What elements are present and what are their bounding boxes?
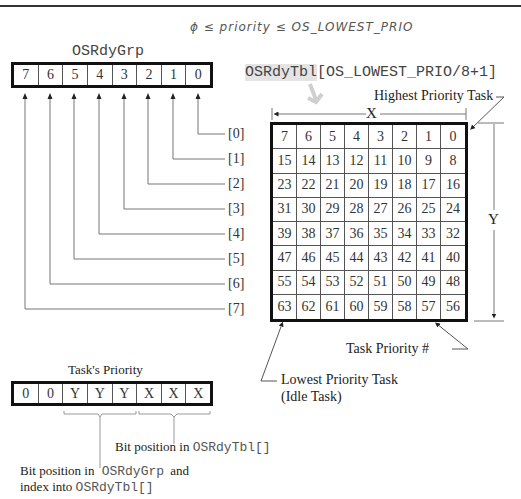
priority-cell: 2 — [393, 125, 417, 149]
priority-cell: 16 — [441, 174, 465, 198]
priority-cell: 7 — [273, 125, 297, 149]
priority-cell: 56 — [441, 295, 465, 319]
priority-cell: 3 — [369, 125, 393, 149]
row-label: [3] — [228, 201, 244, 217]
row-label: [0] — [228, 126, 244, 142]
priority-cell: 61 — [321, 295, 345, 319]
priority-cell: 24 — [441, 198, 465, 222]
y-index-code: OSRdyTbl[] — [76, 480, 154, 495]
task-priority-bit: X — [162, 384, 187, 403]
priority-cell: 34 — [393, 222, 417, 246]
priority-cell: 36 — [345, 222, 369, 246]
priority-cell: 28 — [345, 198, 369, 222]
priority-cell: 31 — [273, 198, 297, 222]
priority-cell: 47 — [273, 246, 297, 270]
y-bits-explanation-line2: index into OSRdyTbl[] — [20, 479, 154, 495]
priority-cell: 43 — [369, 246, 393, 270]
priority-cell: 25 — [417, 198, 441, 222]
task-priority-bits: 0 0 Y Y Y X X X — [11, 381, 213, 406]
priority-cell: 53 — [321, 271, 345, 295]
idle-task-label: (Idle Task) — [281, 389, 342, 405]
priority-cell: 32 — [441, 222, 465, 246]
task-priority-bit: Y — [63, 384, 88, 403]
priority-cell: 46 — [297, 246, 321, 270]
priority-cell: 1 — [417, 125, 441, 149]
task-priority-bit: 0 — [39, 384, 64, 403]
row-label: [6] — [228, 276, 244, 292]
priority-cell: 20 — [345, 174, 369, 198]
priority-cell: 57 — [417, 295, 441, 319]
priority-cell: 12 — [345, 149, 369, 173]
priority-cell: 41 — [417, 246, 441, 270]
y-bits-explanation-line1: Bit position in OSRdyGrp and — [20, 463, 189, 479]
priority-cell: 33 — [417, 222, 441, 246]
priority-cell: 10 — [393, 149, 417, 173]
priority-cell: 39 — [273, 222, 297, 246]
priority-cell: 40 — [441, 246, 465, 270]
priority-cell: 30 — [297, 198, 321, 222]
ready-table-grid: 7 6 5 4 3 2 1 0 15 14 13 12 11 10 9 8 23… — [270, 122, 468, 322]
row-label: [2] — [228, 176, 244, 192]
priority-cell: 8 — [441, 149, 465, 173]
y-index-text: index into — [20, 479, 76, 494]
priority-cell: 35 — [369, 222, 393, 246]
priority-cell: 62 — [297, 295, 321, 319]
task-priority-number-label: Task Priority # — [346, 341, 429, 357]
priority-cell: 0 — [441, 125, 465, 149]
task-priority-bit: X — [137, 384, 162, 403]
priority-cell: 52 — [345, 271, 369, 295]
priority-cell: 42 — [393, 246, 417, 270]
priority-cell: 58 — [393, 295, 417, 319]
priority-cell: 17 — [417, 174, 441, 198]
x-bits-text: Bit position in — [115, 439, 193, 454]
task-priority-bit: Y — [88, 384, 113, 403]
task-priority-bit: X — [186, 384, 210, 403]
priority-cell: 48 — [441, 271, 465, 295]
priority-cell: 44 — [345, 246, 369, 270]
row-label: [4] — [228, 226, 244, 242]
priority-cell: 22 — [297, 174, 321, 198]
priority-cell: 4 — [345, 125, 369, 149]
priority-cell: 50 — [393, 271, 417, 295]
priority-cell: 60 — [345, 295, 369, 319]
priority-cell: 11 — [369, 149, 393, 173]
y-bits-and: and — [167, 463, 189, 478]
y-bits-code: OSRdyGrp — [102, 464, 164, 479]
lowest-priority-label: Lowest Priority Task — [281, 372, 398, 388]
priority-cell: 6 — [297, 125, 321, 149]
x-axis-label: X — [366, 105, 377, 122]
task-priority-bit: 0 — [14, 384, 39, 403]
x-bits-code: OSRdyTbl[] — [193, 440, 271, 455]
priority-cell: 45 — [321, 246, 345, 270]
y-bits-text: Bit position in — [20, 463, 98, 478]
priority-cell: 49 — [417, 271, 441, 295]
priority-cell: 27 — [369, 198, 393, 222]
priority-cell: 9 — [417, 149, 441, 173]
priority-cell: 15 — [273, 149, 297, 173]
priority-cell: 18 — [393, 174, 417, 198]
priority-cell: 38 — [297, 222, 321, 246]
task-priority-title: Task's Priority — [68, 362, 143, 378]
priority-cell: 14 — [297, 149, 321, 173]
y-axis-label: Y — [488, 211, 499, 228]
x-bits-explanation: Bit position in OSRdyTbl[] — [115, 439, 271, 455]
priority-cell: 26 — [393, 198, 417, 222]
priority-cell: 63 — [273, 295, 297, 319]
grey-down-arrow-icon — [308, 84, 322, 102]
priority-cell: 37 — [321, 222, 345, 246]
priority-cell: 54 — [297, 271, 321, 295]
priority-cell: 19 — [369, 174, 393, 198]
priority-cell: 55 — [273, 271, 297, 295]
row-label: [5] — [228, 251, 244, 267]
priority-cell: 5 — [321, 125, 345, 149]
priority-cell: 29 — [321, 198, 345, 222]
highest-priority-label: Highest Priority Task — [374, 88, 493, 104]
priority-cell: 21 — [321, 174, 345, 198]
row-label: [1] — [228, 151, 244, 167]
priority-cell: 13 — [321, 149, 345, 173]
priority-cell: 51 — [369, 271, 393, 295]
row-label: [7] — [228, 301, 244, 317]
task-priority-bit: Y — [113, 384, 138, 403]
priority-cell: 59 — [369, 295, 393, 319]
priority-cell: 23 — [273, 174, 297, 198]
